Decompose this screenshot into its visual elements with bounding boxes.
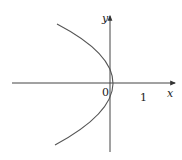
parabola-curve <box>55 24 113 145</box>
origin-label: 0 <box>102 86 109 99</box>
x-axis-label: x <box>167 87 174 100</box>
y-axis-label: y <box>101 12 109 25</box>
parabola-figure: y x 0 1 <box>0 0 182 160</box>
x-tick-label-1: 1 <box>140 91 147 104</box>
